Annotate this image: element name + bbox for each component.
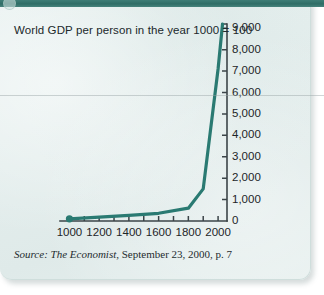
y-axis-tick-label: 1,000: [232, 193, 261, 205]
figure-card: World GDP per person in the year 1000 = …: [0, 0, 311, 280]
y-axis-tick-label: 7,000: [232, 64, 261, 76]
x-axis-tick-label: 1200: [86, 226, 112, 238]
source-label: Source: The Economist,: [14, 248, 119, 260]
y-axis-tick-label: 3,000: [232, 150, 261, 162]
x-axis-tick-label: 1800: [176, 226, 202, 238]
source-detail: September 23, 2000, p. 7: [119, 248, 232, 260]
y-axis-tick-label: 9,000: [232, 21, 261, 33]
x-axis-tick-label: 1400: [116, 226, 142, 238]
x-axis-tick-label: 1000: [57, 226, 83, 238]
x-axis-tick-label: 1600: [146, 226, 172, 238]
chart-title: World GDP per person in the year 1000 = …: [14, 24, 252, 36]
header-band: [0, 0, 324, 7]
y-axis-tick-label: 5,000: [232, 107, 261, 119]
y-axis-tick-label: 8,000: [232, 43, 261, 55]
source-note: Source: The Economist, September 23, 200…: [14, 248, 232, 260]
y-axis-tick-label: 2,000: [232, 171, 261, 183]
x-axis-tick-label: 2000: [205, 226, 231, 238]
y-axis-tick-label: 6,000: [232, 86, 261, 98]
y-axis-tick-label: 0: [232, 214, 238, 226]
y-axis-tick-label: 4,000: [232, 128, 261, 140]
